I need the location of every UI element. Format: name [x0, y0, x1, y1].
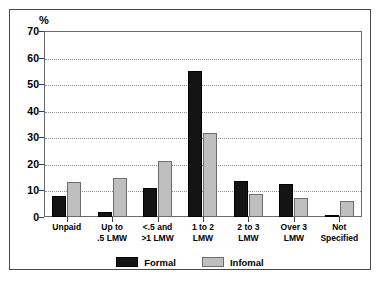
bar-group — [135, 31, 180, 217]
y-axis-tickmark — [39, 217, 44, 218]
bar-formal — [143, 188, 157, 217]
bar-formal — [234, 181, 248, 217]
y-axis-tick-label: 40 — [13, 105, 39, 116]
bar-group — [89, 31, 134, 217]
legend-label-informal: Infomal — [230, 257, 264, 268]
bar-group — [226, 31, 271, 217]
chart-figure: % 010203040506070 UnpaidUp to .5 LMW<.5 … — [9, 9, 371, 270]
y-axis-tick-labels: 010203040506070 — [10, 31, 39, 217]
bar-group — [44, 31, 89, 217]
bar-group — [180, 31, 225, 217]
y-axis-tickmark — [39, 190, 44, 191]
bar-informal — [113, 178, 127, 217]
chart-legend: Formal Infomal — [10, 254, 370, 270]
y-axis-tick-label: 70 — [13, 26, 39, 37]
x-axis-category-label: 2 to 3 LMW — [226, 222, 271, 244]
y-axis-tickmark — [39, 58, 44, 59]
y-axis-tickmark — [39, 137, 44, 138]
x-axis-category-labels: UnpaidUp to .5 LMW<.5 and >1 LMW1 to 2 L… — [44, 222, 362, 254]
x-axis-category-label: 1 to 2 LMW — [180, 222, 225, 244]
bar-informal — [158, 161, 172, 217]
x-axis-category-label: Unpaid — [44, 222, 89, 233]
x-axis-category-label: Not Specified — [317, 222, 362, 244]
y-axis-tick-label: 20 — [13, 159, 39, 170]
bar-informal — [67, 182, 81, 217]
y-axis-tickmark — [39, 31, 44, 32]
bar-formal — [188, 71, 202, 217]
y-axis-unit-label: % — [39, 14, 48, 26]
bar-informal — [340, 201, 354, 217]
bar-informal — [203, 133, 217, 217]
y-axis-tick-label: 50 — [13, 79, 39, 90]
x-axis-category-label: Over 3 LMW — [271, 222, 316, 244]
legend-label-formal: Formal — [144, 257, 176, 268]
bar-group — [271, 31, 316, 217]
bar-formal — [279, 184, 293, 217]
y-axis-tickmark — [39, 84, 44, 85]
bar-informal — [249, 194, 263, 217]
y-axis-tick-label: 30 — [13, 132, 39, 143]
y-axis-tickmark — [39, 164, 44, 165]
bar-informal — [294, 198, 308, 217]
black-swatch-icon — [116, 257, 138, 267]
bar-formal — [52, 196, 66, 217]
gray-swatch-icon — [202, 257, 224, 267]
x-axis-category-label: <.5 and >1 LMW — [135, 222, 180, 244]
y-axis-tick-label: 0 — [13, 212, 39, 223]
bar-group — [317, 31, 362, 217]
y-axis-tick-label: 60 — [13, 52, 39, 63]
x-axis-category-label: Up to .5 LMW — [89, 222, 134, 244]
y-axis-tick-label: 10 — [13, 185, 39, 196]
legend-entry-informal: Infomal — [202, 257, 264, 268]
legend-entry-formal: Formal — [116, 257, 176, 268]
y-axis-tickmark — [39, 111, 44, 112]
bars-layer — [44, 31, 362, 217]
